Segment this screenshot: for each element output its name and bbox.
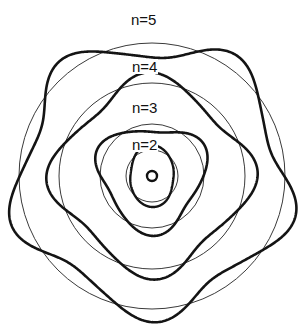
nucleus-icon bbox=[147, 171, 157, 181]
orbit-label-n5: n=5 bbox=[130, 12, 157, 27]
standing-wave-n2 bbox=[130, 145, 173, 207]
orbit-label-n4: n=4 bbox=[131, 59, 158, 74]
standing-wave-orbits-svg bbox=[0, 0, 307, 336]
orbit-diagram: n=5 n=4 n=3 n=2 bbox=[0, 0, 307, 336]
orbit-label-n3: n=3 bbox=[131, 100, 158, 115]
orbit-label-n2: n=2 bbox=[131, 137, 158, 152]
